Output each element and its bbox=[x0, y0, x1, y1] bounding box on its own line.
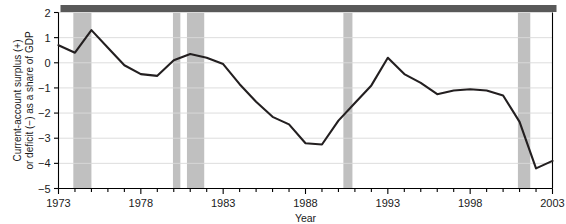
y-axis-title-line-2: or deficit (−) as a share of GDP bbox=[24, 31, 35, 169]
y-tick-label: −3 bbox=[38, 132, 51, 144]
y-tick-label: 2 bbox=[44, 7, 50, 19]
x-tick-label: 1978 bbox=[129, 197, 153, 209]
x-tick-label: 1983 bbox=[211, 197, 235, 209]
x-tick-label: 1998 bbox=[458, 197, 482, 209]
recession-band bbox=[518, 13, 530, 189]
top-border-bar bbox=[61, 5, 557, 12]
x-tick-label: 2003 bbox=[540, 197, 564, 209]
x-tick-label: 1973 bbox=[46, 197, 70, 209]
y-tick-label: 0 bbox=[44, 57, 50, 69]
y-axis-title-line-1: Current-account surplus (+) bbox=[12, 40, 23, 162]
x-tick-label: 1988 bbox=[293, 197, 317, 209]
top-border-bar-rect bbox=[61, 5, 557, 12]
x-axis-title: Year bbox=[295, 212, 317, 224]
recession-band bbox=[173, 13, 180, 189]
y-tick-label: −4 bbox=[38, 157, 51, 169]
recession-band bbox=[187, 13, 204, 189]
y-tick-label: 1 bbox=[44, 32, 50, 44]
current-account-balance-line-chart: 210−1−2−3−4−5 19731978198319881993199820… bbox=[0, 0, 566, 224]
y-tick-label: −2 bbox=[38, 107, 51, 119]
recession-band bbox=[343, 13, 352, 189]
y-tick-label: −5 bbox=[38, 183, 51, 195]
x-tick-label: 1993 bbox=[376, 197, 400, 209]
recession-band bbox=[73, 13, 91, 189]
chart-figure: 210−1−2−3−4−5 19731978198319881993199820… bbox=[0, 0, 566, 224]
y-axis-title: Current-account surplus (+) or deficit (… bbox=[12, 31, 35, 169]
y-tick-label: −1 bbox=[38, 82, 51, 94]
